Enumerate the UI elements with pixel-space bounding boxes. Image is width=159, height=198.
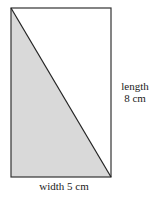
rectangle-diagram: length 8 cm width 5 cm xyxy=(0,0,159,198)
width-label: width 5 cm xyxy=(24,180,104,192)
length-label-value: 8 cm xyxy=(115,92,155,104)
length-label: length 8 cm xyxy=(115,80,155,104)
length-label-word: length xyxy=(115,80,155,92)
